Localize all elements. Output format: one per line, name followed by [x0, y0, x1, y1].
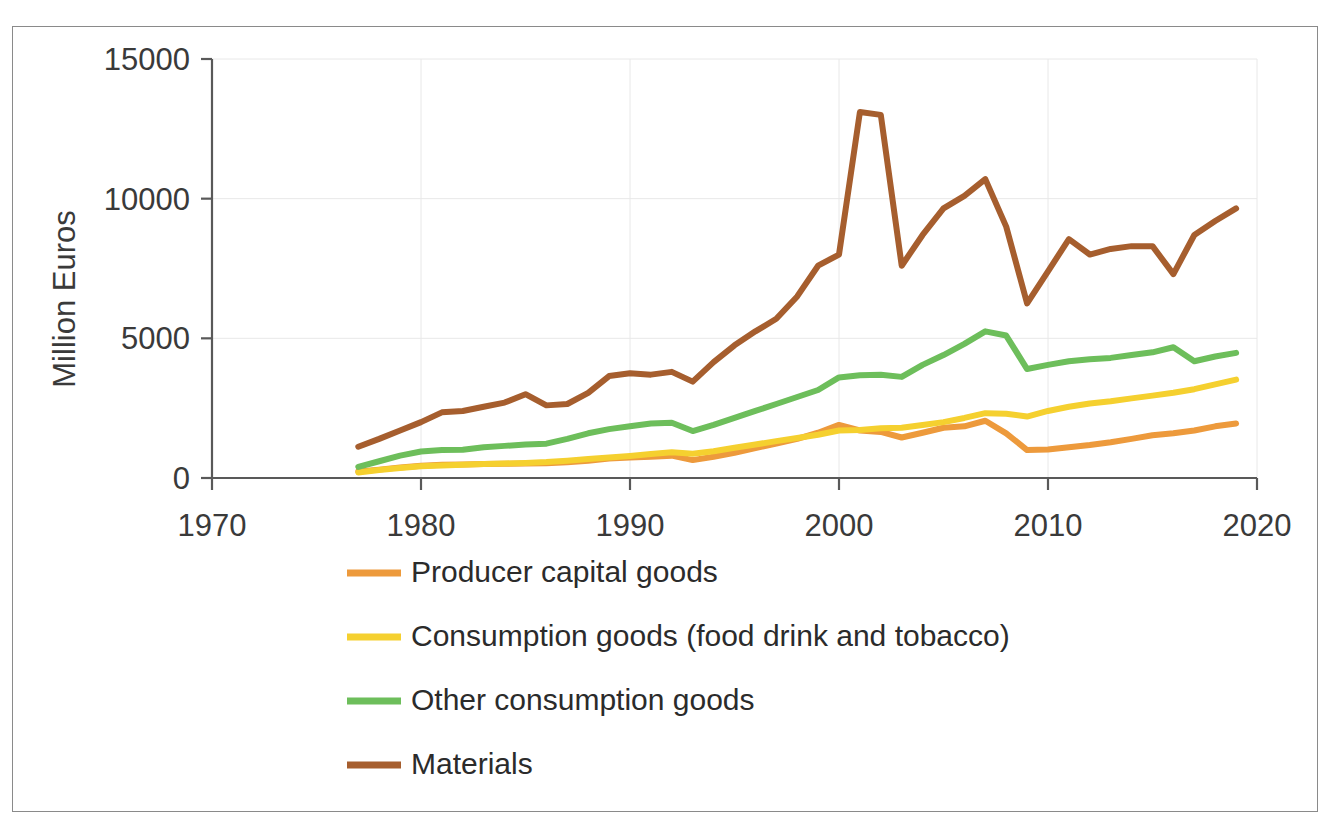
x-axis-tick-labels: 197019801990200020102020: [178, 508, 1292, 543]
x-tickmarks: [212, 478, 1257, 490]
y-tick-label: 10000: [104, 182, 190, 217]
x-tick-label: 1990: [596, 508, 665, 543]
axes: [201, 59, 1257, 490]
x-tick-label: 1980: [387, 508, 456, 543]
x-tick-label: 2010: [1014, 508, 1083, 543]
data-series-group: [358, 112, 1236, 472]
x-tick-label: 2020: [1223, 508, 1292, 543]
x-tick-label: 1970: [178, 508, 247, 543]
chart-frame: 050001000015000 197019801990200020102020…: [12, 26, 1318, 812]
legend-label[interactable]: Other consumption goods: [411, 683, 755, 716]
legend-label[interactable]: Consumption goods (food drink and tobacc…: [411, 619, 1010, 652]
y-tick-label: 5000: [121, 321, 190, 356]
y-axis-title: Million Euros: [47, 210, 82, 387]
legend-label[interactable]: Producer capital goods: [411, 555, 718, 588]
legend-label[interactable]: Materials: [411, 747, 533, 780]
y-tickmarks: [201, 59, 212, 478]
series-line-consumption-goods-food-drink-and-tobacco: [358, 380, 1236, 473]
chart-legend: Producer capital goodsConsumption goods …: [347, 555, 1010, 780]
line-chart: 050001000015000 197019801990200020102020…: [13, 27, 1317, 811]
y-tick-label: 0: [173, 461, 190, 496]
x-tick-label: 2000: [805, 508, 874, 543]
y-axis-tick-labels: 050001000015000: [104, 42, 190, 496]
y-tick-label: 15000: [104, 42, 190, 77]
